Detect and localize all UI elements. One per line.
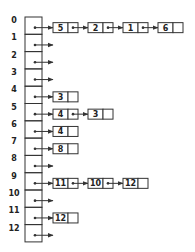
node-pointer-box — [103, 109, 113, 119]
list-node: 1 — [123, 23, 158, 33]
array-cell — [25, 190, 42, 207]
list-node: 4 — [53, 109, 88, 119]
index-label: 9 — [11, 172, 17, 181]
array-cell — [25, 225, 42, 242]
node-pointer-box — [68, 92, 78, 102]
array-cell — [25, 34, 42, 51]
array-row: 1 — [11, 33, 53, 51]
array-cell — [25, 207, 42, 224]
node-pointer-box — [68, 126, 78, 136]
index-label: 7 — [11, 137, 17, 146]
array-row: 1112 — [8, 206, 78, 224]
array-cell — [25, 104, 42, 121]
list-node: 4 — [53, 126, 78, 136]
list-node: 10 — [88, 178, 123, 188]
node-pointer-box — [68, 213, 78, 223]
list-node: 12 — [123, 178, 148, 188]
index-label: 10 — [8, 189, 20, 198]
array-row: 543 — [11, 103, 113, 121]
list-node: 5 — [53, 23, 88, 33]
index-label: 1 — [11, 33, 17, 42]
array-cell — [25, 121, 42, 138]
array-cell — [25, 173, 42, 190]
index-label: 3 — [11, 68, 17, 77]
node-value: 1 — [128, 24, 134, 33]
node-value: 10 — [90, 179, 102, 188]
index-label: 2 — [11, 51, 17, 60]
list-node: 3 — [88, 109, 113, 119]
array-row: 8 — [11, 154, 53, 172]
array-row: 78 — [11, 137, 78, 155]
array-cell — [25, 17, 42, 34]
node-value: 4 — [58, 110, 64, 119]
array-row: 12 — [8, 224, 53, 242]
node-value: 3 — [58, 93, 64, 102]
array-row: 05216 — [11, 16, 183, 34]
node-value: 3 — [93, 110, 99, 119]
list-node: 8 — [53, 144, 78, 154]
array-cell — [25, 69, 42, 86]
array-row: 64 — [11, 120, 78, 138]
node-value: 12 — [55, 214, 66, 223]
array-row: 2 — [11, 51, 53, 69]
node-value: 4 — [58, 127, 64, 136]
node-pointer-box — [173, 23, 183, 33]
index-label: 0 — [11, 16, 17, 25]
node-value: 8 — [58, 145, 64, 154]
array-row: 10 — [8, 189, 53, 207]
adjacency-list-diagram: 052161234354364788911101210111212 — [0, 0, 195, 252]
node-value: 5 — [58, 24, 64, 33]
index-label: 6 — [11, 120, 17, 129]
node-pointer-box — [138, 178, 148, 188]
array-cell — [25, 155, 42, 172]
index-label: 8 — [11, 154, 17, 163]
index-label: 12 — [8, 224, 19, 233]
list-node: 11 — [53, 178, 88, 188]
array-cell — [25, 52, 42, 69]
list-node: 3 — [53, 92, 78, 102]
list-node: 6 — [158, 23, 183, 33]
list-node: 12 — [53, 213, 78, 223]
list-node: 2 — [88, 23, 123, 33]
node-value: 6 — [163, 24, 169, 33]
array-cell — [25, 86, 42, 103]
array-row: 3 — [11, 68, 53, 86]
array-row: 43 — [11, 85, 78, 103]
node-pointer-box — [68, 144, 78, 154]
node-value: 2 — [93, 24, 99, 33]
index-label: 4 — [11, 85, 17, 94]
array-cell — [25, 138, 42, 155]
index-label: 5 — [11, 103, 17, 112]
array-row: 9111012 — [11, 172, 148, 190]
index-label: 11 — [8, 206, 20, 215]
node-value: 12 — [125, 179, 136, 188]
node-value: 11 — [55, 179, 67, 188]
